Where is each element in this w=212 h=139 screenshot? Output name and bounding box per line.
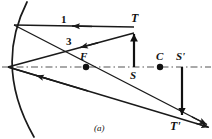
label-center-of-curvature-C: C — [156, 51, 163, 62]
label-focal-point-F: F — [80, 51, 87, 62]
focal-point-dot — [83, 64, 89, 70]
label-object-top-T: T — [131, 12, 138, 24]
center-of-curvature-dot — [157, 64, 163, 70]
figure-caption: (a) — [94, 124, 105, 133]
label-object-base-S: S — [130, 70, 136, 81]
label-ray-3: 3 — [66, 36, 72, 47]
label-ray-1: 1 — [61, 14, 67, 25]
ray-3-direction-arrowhead — [80, 43, 98, 48]
ray-lower-arrowhead — [36, 75, 52, 80]
label-image-top-T-prime: T' — [170, 120, 181, 132]
label-image-base-S-prime: S' — [176, 51, 185, 62]
ray-diagram-figure: T T' S S' C F 1 3 (a) — [0, 0, 212, 139]
